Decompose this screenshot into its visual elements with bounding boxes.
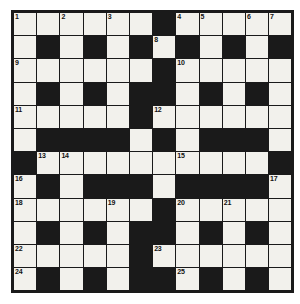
crossword-open-cell[interactable] bbox=[37, 245, 59, 267]
crossword-open-cell[interactable] bbox=[246, 245, 268, 267]
crossword-open-cell[interactable]: 16 bbox=[14, 175, 36, 197]
crossword-open-cell[interactable]: 18 bbox=[14, 199, 36, 221]
crossword-open-cell[interactable]: 24 bbox=[14, 268, 36, 290]
crossword-open-cell[interactable]: 2 bbox=[60, 13, 82, 35]
crossword-open-cell[interactable] bbox=[246, 152, 268, 174]
crossword-open-cell[interactable]: 3 bbox=[107, 13, 129, 35]
crossword-open-cell[interactable] bbox=[269, 245, 291, 267]
crossword-open-cell[interactable] bbox=[60, 268, 82, 290]
crossword-open-cell[interactable] bbox=[223, 59, 245, 81]
crossword-open-cell[interactable] bbox=[269, 222, 291, 244]
crossword-open-cell[interactable] bbox=[107, 83, 129, 105]
crossword-open-cell[interactable] bbox=[130, 13, 152, 35]
crossword-open-cell[interactable] bbox=[223, 83, 245, 105]
crossword-open-cell[interactable] bbox=[223, 13, 245, 35]
crossword-open-cell[interactable] bbox=[107, 245, 129, 267]
crossword-open-cell[interactable]: 19 bbox=[107, 199, 129, 221]
crossword-open-cell[interactable] bbox=[153, 175, 175, 197]
crossword-open-cell[interactable] bbox=[14, 36, 36, 58]
crossword-open-cell[interactable]: 17 bbox=[269, 175, 291, 197]
crossword-open-cell[interactable] bbox=[269, 199, 291, 221]
crossword-open-cell[interactable] bbox=[176, 83, 198, 105]
crossword-open-cell[interactable] bbox=[60, 36, 82, 58]
crossword-open-cell[interactable]: 21 bbox=[223, 199, 245, 221]
crossword-open-cell[interactable] bbox=[84, 13, 106, 35]
crossword-open-cell[interactable]: 23 bbox=[153, 245, 175, 267]
crossword-open-cell[interactable]: 13 bbox=[37, 152, 59, 174]
crossword-open-cell[interactable] bbox=[107, 36, 129, 58]
crossword-open-cell[interactable] bbox=[107, 268, 129, 290]
crossword-open-cell[interactable] bbox=[60, 199, 82, 221]
crossword-open-cell[interactable] bbox=[84, 59, 106, 81]
crossword-open-cell[interactable] bbox=[269, 268, 291, 290]
crossword-open-cell[interactable]: 9 bbox=[14, 59, 36, 81]
crossword-open-cell[interactable] bbox=[14, 129, 36, 151]
crossword-open-cell[interactable] bbox=[246, 106, 268, 128]
crossword-open-cell[interactable] bbox=[269, 106, 291, 128]
crossword-open-cell[interactable]: 1 bbox=[14, 13, 36, 35]
crossword-open-cell[interactable] bbox=[176, 106, 198, 128]
crossword-open-cell[interactable] bbox=[223, 106, 245, 128]
crossword-open-cell[interactable] bbox=[60, 245, 82, 267]
crossword-open-cell[interactable] bbox=[200, 152, 222, 174]
crossword-open-cell[interactable]: 10 bbox=[176, 59, 198, 81]
crossword-open-cell[interactable] bbox=[176, 222, 198, 244]
crossword-open-cell[interactable] bbox=[200, 36, 222, 58]
crossword-open-cell[interactable] bbox=[130, 199, 152, 221]
crossword-open-cell[interactable] bbox=[107, 222, 129, 244]
crossword-open-cell[interactable] bbox=[84, 199, 106, 221]
crossword-open-cell[interactable] bbox=[37, 13, 59, 35]
crossword-open-cell[interactable] bbox=[130, 152, 152, 174]
crossword-open-cell[interactable] bbox=[84, 152, 106, 174]
crossword-open-cell[interactable] bbox=[37, 199, 59, 221]
crossword-open-cell[interactable] bbox=[130, 129, 152, 151]
crossword-open-cell[interactable]: 5 bbox=[200, 13, 222, 35]
crossword-open-cell[interactable] bbox=[107, 59, 129, 81]
crossword-open-cell[interactable]: 11 bbox=[14, 106, 36, 128]
crossword-open-cell[interactable] bbox=[60, 175, 82, 197]
crossword-open-cell[interactable] bbox=[223, 152, 245, 174]
crossword-open-cell[interactable]: 25 bbox=[176, 268, 198, 290]
crossword-open-cell[interactable]: 15 bbox=[176, 152, 198, 174]
crossword-open-cell[interactable] bbox=[60, 222, 82, 244]
crossword-open-cell[interactable] bbox=[223, 245, 245, 267]
crossword-open-cell[interactable]: 6 bbox=[246, 13, 268, 35]
crossword-open-cell[interactable] bbox=[60, 106, 82, 128]
crossword-open-cell[interactable] bbox=[14, 83, 36, 105]
crossword-open-cell[interactable] bbox=[200, 245, 222, 267]
crossword-open-cell[interactable] bbox=[223, 222, 245, 244]
crossword-open-cell[interactable] bbox=[200, 199, 222, 221]
crossword-open-cell[interactable] bbox=[14, 222, 36, 244]
crossword-open-cell[interactable]: 20 bbox=[176, 199, 198, 221]
crossword-open-cell[interactable] bbox=[153, 152, 175, 174]
crossword-open-cell[interactable]: 7 bbox=[269, 13, 291, 35]
crossword-open-cell[interactable] bbox=[223, 268, 245, 290]
crossword-open-cell[interactable] bbox=[246, 36, 268, 58]
crossword-open-cell[interactable] bbox=[176, 245, 198, 267]
crossword-open-cell[interactable]: 14 bbox=[60, 152, 82, 174]
crossword-open-cell[interactable]: 4 bbox=[176, 13, 198, 35]
crossword-open-cell[interactable] bbox=[200, 59, 222, 81]
crossword-open-cell[interactable] bbox=[84, 106, 106, 128]
cell-number: 10 bbox=[177, 59, 184, 67]
crossword-open-cell[interactable] bbox=[60, 83, 82, 105]
crossword-open-cell[interactable] bbox=[37, 59, 59, 81]
crossword-open-cell[interactable] bbox=[176, 129, 198, 151]
crossword-open-cell[interactable]: 8 bbox=[153, 36, 175, 58]
crossword-open-cell[interactable] bbox=[107, 106, 129, 128]
crossword-grid[interactable]: 1234567891011121314151617181920212223242… bbox=[11, 10, 294, 293]
crossword-open-cell[interactable] bbox=[84, 245, 106, 267]
crossword-open-cell[interactable]: 12 bbox=[153, 106, 175, 128]
crossword-open-cell[interactable] bbox=[107, 152, 129, 174]
crossword-open-cell[interactable] bbox=[246, 199, 268, 221]
crossword-open-cell[interactable] bbox=[200, 106, 222, 128]
crossword-open-cell[interactable] bbox=[269, 59, 291, 81]
crossword-open-cell[interactable] bbox=[269, 83, 291, 105]
crossword-open-cell[interactable] bbox=[60, 59, 82, 81]
crossword-open-cell[interactable] bbox=[37, 106, 59, 128]
crossword-open-cell[interactable] bbox=[269, 129, 291, 151]
crossword-open-cell[interactable] bbox=[246, 59, 268, 81]
crossword-block-cell bbox=[37, 36, 59, 58]
crossword-open-cell[interactable]: 22 bbox=[14, 245, 36, 267]
crossword-open-cell[interactable] bbox=[130, 59, 152, 81]
